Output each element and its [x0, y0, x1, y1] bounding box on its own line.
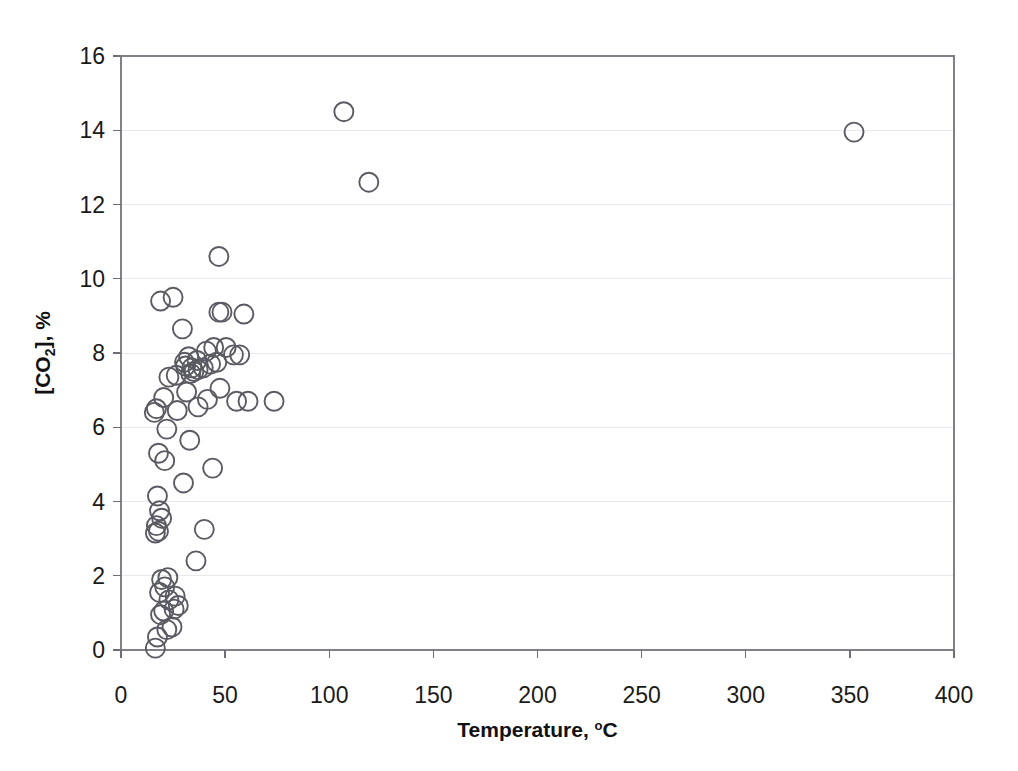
data-point	[334, 102, 353, 121]
scatter-plot: 050100150200250300350400 0246810121416 T…	[0, 0, 1018, 771]
x-axis-ticks	[121, 650, 954, 658]
y-tick-label: 0	[92, 637, 105, 663]
x-tick-label: 100	[310, 682, 348, 708]
data-point	[152, 570, 171, 589]
x-tick-label: 50	[212, 682, 238, 708]
data-point	[180, 431, 199, 450]
data-point	[359, 173, 378, 192]
y-axis-ticks	[113, 56, 121, 650]
x-axis-title-text: Temperature, oC	[457, 718, 617, 742]
y-tick-label: 12	[79, 192, 105, 218]
data-point	[239, 392, 258, 411]
data-point	[195, 520, 214, 539]
x-tick-label: 400	[935, 682, 973, 708]
x-tick-label: 0	[115, 682, 128, 708]
y-tick-label: 14	[79, 117, 105, 143]
data-point	[845, 123, 864, 142]
x-tick-label: 350	[831, 682, 869, 708]
data-point	[151, 292, 170, 311]
gridlines	[121, 56, 954, 576]
chart-container: 050100150200250300350400 0246810121416 T…	[0, 0, 1018, 771]
y-axis-title: [CO2], %	[31, 311, 59, 395]
y-tick-label: 8	[92, 340, 105, 366]
x-tick-label: 200	[518, 682, 556, 708]
y-axis-tick-labels: 0246810121416	[79, 43, 105, 663]
data-point	[186, 551, 205, 570]
data-point	[174, 473, 193, 492]
data-point	[148, 486, 167, 505]
y-axis-title-text: [CO2], %	[31, 311, 59, 395]
data-point	[164, 288, 183, 307]
data-point-markers	[145, 102, 864, 657]
y-tick-label: 10	[79, 266, 105, 292]
x-tick-label: 250	[622, 682, 660, 708]
data-point	[265, 392, 284, 411]
y-tick-label: 4	[92, 489, 105, 515]
x-axis-tick-labels: 050100150200250300350400	[115, 682, 974, 708]
x-tick-label: 300	[727, 682, 765, 708]
y-tick-label: 6	[92, 414, 105, 440]
data-point	[201, 355, 220, 374]
data-point	[157, 420, 176, 439]
data-point	[173, 319, 192, 338]
x-axis-title: Temperature, oC	[457, 718, 617, 742]
data-point	[227, 392, 246, 411]
y-tick-label: 16	[79, 43, 105, 69]
data-point	[203, 459, 222, 478]
data-point	[209, 247, 228, 266]
x-tick-label: 150	[414, 682, 452, 708]
y-tick-label: 2	[92, 563, 105, 589]
data-point	[234, 305, 253, 324]
data-point	[177, 382, 196, 401]
data-point	[210, 379, 229, 398]
